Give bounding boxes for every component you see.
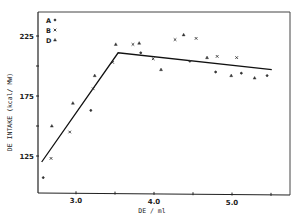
dot-marker bbox=[90, 110, 92, 112]
x-tick-label: 4.0 bbox=[148, 198, 161, 206]
legend: ABD bbox=[46, 17, 57, 45]
triangle-marker bbox=[50, 124, 53, 127]
triangle-marker bbox=[206, 56, 209, 59]
dot-marker bbox=[54, 19, 56, 21]
dot-marker bbox=[215, 71, 217, 73]
y-axis-ticks: 125175225 bbox=[19, 33, 39, 161]
cross-marker bbox=[132, 43, 135, 46]
y-tick-label: 125 bbox=[19, 153, 34, 161]
plot-frame bbox=[38, 12, 290, 195]
triangle-marker bbox=[182, 33, 185, 36]
x-axis-label: DE / ml bbox=[138, 207, 165, 215]
series-A bbox=[42, 52, 268, 179]
cross-marker bbox=[68, 131, 71, 134]
y-tick-label: 175 bbox=[19, 93, 34, 101]
triangle-marker bbox=[71, 102, 74, 105]
cross-marker bbox=[54, 29, 57, 32]
triangle-marker bbox=[54, 38, 57, 41]
cross-marker bbox=[235, 56, 238, 59]
legend-label-A: A bbox=[46, 17, 51, 25]
fit-line bbox=[42, 53, 272, 162]
x-tick-label: 5.0 bbox=[226, 199, 239, 207]
dot-marker bbox=[140, 52, 142, 54]
cross-marker bbox=[50, 157, 53, 160]
dot-marker bbox=[240, 72, 242, 74]
dot-marker bbox=[189, 60, 191, 62]
cross-marker bbox=[195, 37, 198, 40]
triangle-marker bbox=[230, 74, 233, 77]
y-tick-label: 225 bbox=[19, 33, 34, 41]
triangle-marker bbox=[138, 42, 141, 45]
x-tick-label: 3.0 bbox=[70, 197, 83, 205]
triangle-marker bbox=[160, 68, 163, 71]
dot-marker bbox=[42, 177, 44, 179]
legend-label-B: B bbox=[46, 27, 51, 35]
data-points bbox=[42, 33, 268, 178]
broken-stick-fit-line bbox=[42, 53, 272, 162]
chart: 3.04.05.0 125175225 ABD DE / ml DE INTAK… bbox=[0, 0, 305, 224]
cross-marker bbox=[152, 58, 155, 61]
triangle-marker bbox=[253, 76, 256, 79]
triangle-marker bbox=[114, 43, 117, 46]
y-axis-label: DE INTAKE (kcal/ MW) bbox=[6, 73, 14, 151]
cross-marker bbox=[216, 55, 219, 58]
dot-marker bbox=[266, 75, 268, 77]
series-D bbox=[50, 33, 256, 127]
triangle-marker bbox=[93, 74, 96, 77]
cross-marker bbox=[174, 38, 177, 41]
legend-label-D: D bbox=[46, 37, 52, 45]
